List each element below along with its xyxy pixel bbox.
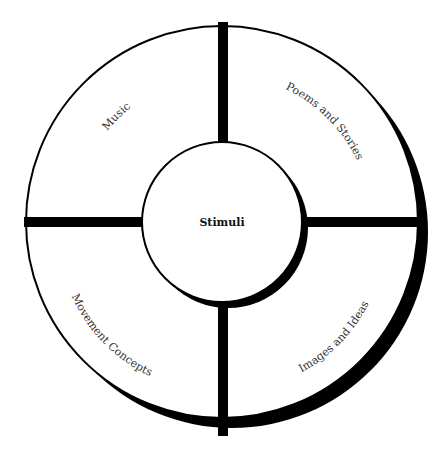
divider-right — [298, 217, 424, 227]
divider-top — [218, 22, 228, 150]
center-label: Stimuli — [199, 216, 244, 229]
divider-bottom — [218, 296, 228, 436]
stimuli-diagram: Music Poems and Stories Movement Concept… — [0, 0, 444, 459]
divider-left — [24, 217, 148, 227]
